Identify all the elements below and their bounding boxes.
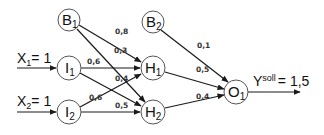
node-h2: H2: [141, 100, 165, 124]
edge-h1-o1: [165, 72, 224, 89]
node-b2: B2: [142, 11, 164, 33]
edge-h2-o1: [165, 95, 224, 108]
input-x1: X1= 1: [17, 50, 56, 68]
input-x2: X2= 1: [17, 93, 56, 112]
input-label-x2: X2= 1: [17, 93, 51, 111]
node-i2: I2: [57, 100, 81, 124]
edges-layer-1: 0,8 0,3 0,6 0,4 0,6 0,5: [77, 25, 145, 112]
output-label: Ysoll= 1,5: [253, 73, 310, 89]
weight-i1-h1: 0,6: [87, 57, 100, 66]
input-label-x1: X1= 1: [17, 50, 51, 68]
node-i1: I1: [57, 56, 81, 80]
weight-b2-o1: 0,1: [197, 41, 210, 50]
neural-network-diagram: X1= 1 X2= 1 0,8 0,3 0,6 0,4 0,6 0,5 0,1 …: [0, 0, 324, 135]
weight-b1-h2: 0,3: [114, 46, 127, 55]
node-h1: H1: [141, 56, 165, 80]
node-b1: B1: [58, 9, 80, 31]
weight-h2-o1: 0,4: [196, 92, 209, 101]
edges-layer-2: 0,1 0,5 0,4: [161, 30, 228, 108]
node-o1: O1: [224, 80, 248, 104]
weight-b1-h1: 0,8: [115, 27, 128, 36]
edge-i2-h1: [80, 74, 141, 107]
weight-i2-h1: 0,6: [89, 93, 102, 102]
output-y: Ysoll= 1,5: [248, 73, 310, 92]
weight-i2-h2: 0,5: [115, 101, 128, 110]
weight-i1-h2: 0,4: [115, 74, 128, 83]
weight-h1-o1: 0,5: [196, 65, 209, 74]
